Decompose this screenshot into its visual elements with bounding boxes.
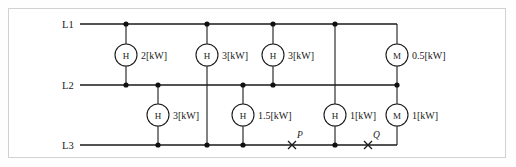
meter-symbol: M — [393, 51, 401, 61]
junction-node — [240, 142, 245, 147]
bus-label-l1: L1 — [62, 19, 74, 30]
junction-node — [204, 21, 209, 26]
meter-m7[interactable]: H 1[kW] — [324, 104, 376, 126]
meter-m1[interactable]: H 2[kW] — [115, 44, 167, 66]
bus-label-l2: L2 — [62, 80, 74, 91]
fault-label-q: Q — [373, 130, 380, 140]
meter-value-label: 2[kW] — [141, 50, 167, 61]
junction-node — [332, 142, 337, 147]
fault-marker-q[interactable]: Q — [364, 130, 380, 149]
meter-value-label: 0.5[kW] — [412, 50, 446, 61]
meter-m2[interactable]: H 3[kW] — [196, 44, 248, 66]
junction-node — [155, 82, 160, 87]
meter-symbol: M — [393, 111, 401, 121]
fault-marker-p[interactable]: P — [288, 130, 303, 149]
meter-m5[interactable]: H 3[kW] — [147, 104, 199, 126]
circuit-diagram-root: L1 L2 L3 — [0, 0, 516, 167]
junction-node — [240, 82, 245, 87]
meter-m8[interactable]: M 1[kW] — [386, 104, 438, 126]
bus-labels: L1 L2 L3 — [62, 19, 74, 151]
meter-symbol: H — [204, 51, 211, 61]
junction-node — [270, 82, 275, 87]
meter-value-label: 1[kW] — [412, 110, 438, 121]
fault-label-p: P — [296, 130, 303, 140]
meter-m4[interactable]: M 0.5[kW] — [386, 44, 446, 66]
meter-m6[interactable]: H 1.5[kW] — [232, 104, 292, 126]
meter-symbol: H — [123, 51, 130, 61]
meter-m3[interactable]: H 3[kW] — [262, 44, 314, 66]
meter-value-label: 3[kW] — [173, 110, 199, 121]
meter-value-label: 3[kW] — [288, 50, 314, 61]
meter-symbol: H — [240, 111, 247, 121]
meter-value-label: 1.5[kW] — [258, 110, 292, 121]
junction-node — [270, 21, 275, 26]
circuit-canvas: L1 L2 L3 — [0, 0, 516, 167]
junction-node — [123, 21, 128, 26]
meter-symbol: H — [332, 111, 339, 121]
meter-symbol: H — [155, 111, 162, 121]
junction-node — [123, 82, 128, 87]
meter-value-label: 1[kW] — [350, 110, 376, 121]
bus-label-l3: L3 — [62, 140, 74, 151]
junction-node — [332, 21, 337, 26]
junction-node — [394, 82, 399, 87]
junction-node — [155, 142, 160, 147]
meter-value-label: 3[kW] — [222, 50, 248, 61]
junction-node — [204, 142, 209, 147]
meter-symbol: H — [270, 51, 277, 61]
